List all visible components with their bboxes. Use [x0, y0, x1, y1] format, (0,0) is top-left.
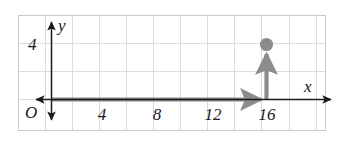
coordinate-grid-figure: 4 y O 4 8 12 16 x — [0, 0, 338, 143]
plot-canvas — [0, 0, 338, 143]
x-tick-label-8: 8 — [147, 106, 167, 123]
x-tick-label-12: 12 — [200, 106, 226, 123]
y-axis-name-label: y — [58, 17, 66, 34]
x-tick-label-16: 16 — [254, 106, 280, 123]
origin-label: O — [25, 104, 37, 121]
y-tick-label-4: 4 — [28, 36, 37, 53]
x-tick-label-4: 4 — [92, 106, 112, 123]
data-point-16-4 — [260, 38, 273, 51]
x-axis-name-label: x — [304, 78, 312, 95]
vector-group — [51, 38, 273, 100]
